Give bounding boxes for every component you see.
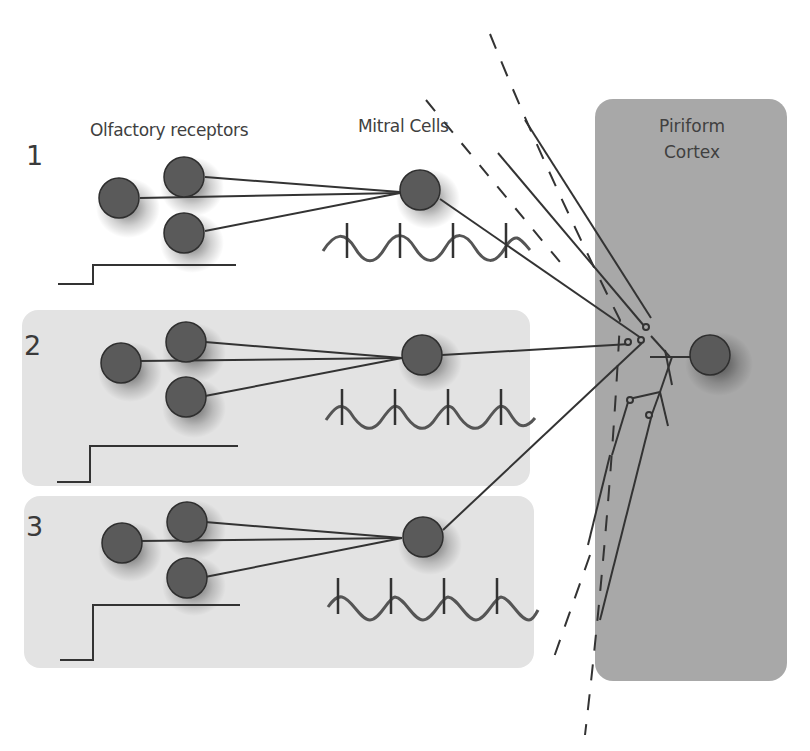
mitral-cell-neuron [402, 335, 442, 375]
row-3-box [24, 496, 534, 668]
cortical-neuron [690, 335, 730, 375]
olfactory-receptors-label: Olfactory receptors [90, 120, 248, 140]
mitral-cell-neuron [403, 517, 443, 557]
piriform-label-line1: Piriform [632, 113, 752, 139]
row-1 [58, 157, 530, 284]
receptor-neuron [167, 558, 207, 598]
row-3-number: 3 [26, 511, 43, 542]
row-2-number: 2 [24, 330, 41, 361]
receptor-neuron [166, 377, 206, 417]
mitral-cells-label: Mitral Cells [358, 116, 449, 136]
mitral-cell-neuron [400, 170, 440, 210]
receptor-neuron [164, 213, 204, 253]
dashed-boundary-lower [553, 555, 590, 660]
row-2-box [22, 310, 530, 486]
receptor-neuron [166, 322, 206, 362]
receptor-neuron [102, 523, 142, 563]
receptor-neuron [101, 343, 141, 383]
piriform-cortex-label: Piriform Cortex [632, 113, 752, 165]
piriform-label-line2: Cortex [632, 139, 752, 165]
receptor-neuron [99, 178, 139, 218]
row-1-number: 1 [26, 140, 43, 171]
piriform-cortex-box [595, 99, 787, 681]
receptor-neuron [167, 502, 207, 542]
receptor-neuron [164, 157, 204, 197]
